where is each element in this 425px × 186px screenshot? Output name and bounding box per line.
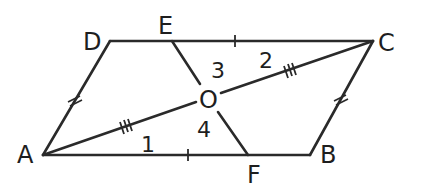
- diagonal-oc: [221, 41, 373, 93]
- diagonal-ao: [43, 102, 196, 155]
- label-a: A: [17, 141, 34, 169]
- label-c: C: [378, 29, 395, 57]
- label-d: D: [83, 28, 101, 56]
- angle-label-2: 2: [259, 48, 273, 73]
- label-b: B: [320, 141, 336, 169]
- parallelogram-diagram: A B C D E F O 1 2 3 4: [0, 0, 425, 186]
- label-e: E: [158, 12, 173, 40]
- label-f: F: [247, 161, 261, 186]
- angle-label-3: 3: [211, 58, 225, 83]
- label-o: O: [199, 86, 218, 114]
- tick-triple-oc: [284, 63, 296, 78]
- angle-label-4: 4: [197, 117, 211, 142]
- angle-label-1: 1: [141, 132, 155, 157]
- segment-of: [218, 112, 248, 155]
- segment-eo: [172, 41, 200, 84]
- tick-triple-ao: [120, 119, 132, 134]
